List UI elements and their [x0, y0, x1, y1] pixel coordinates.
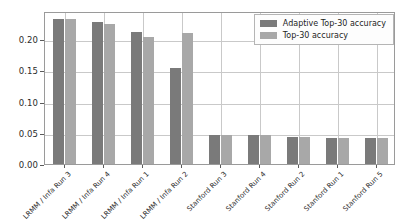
- x-tick-mark: [220, 165, 221, 168]
- x-tick-mark: [337, 165, 338, 168]
- bar-adaptive: [53, 19, 65, 164]
- x-tick-mark: [103, 165, 104, 168]
- bar-top30: [65, 19, 77, 165]
- bar-group: [123, 13, 162, 164]
- bar-adaptive: [287, 137, 299, 164]
- y-tick-label: 0.20: [19, 35, 38, 45]
- bar-group: [45, 13, 84, 164]
- bar-top30: [299, 137, 311, 164]
- bar-adaptive: [131, 32, 143, 164]
- x-tick-mark: [259, 165, 260, 168]
- legend-item-adaptive-top-30-accuracy: Adaptive Top-30 accuracy: [260, 19, 386, 28]
- chart-legend: Adaptive Top-30 accuracy Top-30 accuracy: [254, 14, 394, 45]
- x-tick-label: Stanford Run 4: [224, 170, 267, 213]
- x-tick-mark: [64, 165, 65, 168]
- legend-label-top30: Top-30 accuracy: [283, 31, 348, 40]
- bar-adaptive: [326, 138, 338, 164]
- y-axis: 0.000.050.100.150.20: [0, 12, 44, 165]
- bar-top30: [182, 33, 194, 164]
- x-tick-label: Stanford Run 1: [302, 170, 345, 213]
- y-tick-label: 0.15: [19, 66, 38, 76]
- legend-swatch-icon-adaptive: [260, 20, 277, 27]
- bar-top30: [260, 135, 272, 164]
- bar-adaptive: [170, 68, 182, 164]
- bar-group: [162, 13, 201, 164]
- bar-group: [84, 13, 123, 164]
- bar-chart-figure: 0.000.050.100.150.20 LRMM / Infa Run 3LR…: [0, 0, 412, 223]
- y-tick-label: 0.00: [19, 160, 38, 170]
- x-tick-label: Stanford Run 5: [341, 170, 384, 213]
- legend-item-top-30-accuracy: Top-30 accuracy: [260, 31, 386, 40]
- x-tick-mark: [142, 165, 143, 168]
- x-tick-mark: [298, 165, 299, 168]
- bar-adaptive: [92, 22, 104, 164]
- legend-label-adaptive: Adaptive Top-30 accuracy: [283, 19, 386, 28]
- x-tick-label: Stanford Run 3: [185, 170, 228, 213]
- bar-adaptive: [248, 135, 260, 164]
- x-tick-mark: [181, 165, 182, 168]
- x-tick-mark: [376, 165, 377, 168]
- bar-adaptive: [365, 138, 377, 164]
- bar-group: [201, 13, 240, 164]
- bar-top30: [143, 37, 155, 164]
- y-tick-label: 0.10: [19, 98, 38, 108]
- bar-top30: [377, 138, 389, 164]
- x-axis: LRMM / Infa Run 3LRMM / Infa Run 4LRMM /…: [44, 165, 395, 223]
- x-tick-label: Stanford Run 2: [263, 170, 306, 213]
- legend-swatch-icon-top30: [260, 32, 277, 39]
- bar-top30: [338, 138, 350, 164]
- y-tick-label: 0.05: [19, 129, 38, 139]
- bar-top30: [104, 24, 116, 165]
- bar-top30: [221, 135, 233, 164]
- bar-adaptive: [209, 135, 221, 164]
